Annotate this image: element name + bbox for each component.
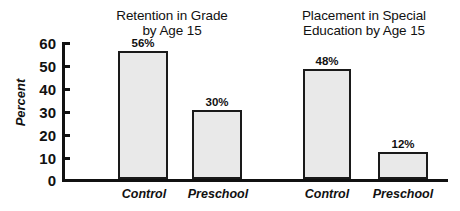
y-tick-label-50: 50: [16, 59, 56, 74]
x-label-retention-preschool: Preschool: [178, 188, 258, 201]
y-tick-label-60: 60: [16, 36, 56, 51]
x-label-placement-preschool: Preschool: [363, 188, 443, 201]
y-tick-10: [62, 157, 70, 160]
x-label-placement-control: Control: [291, 188, 363, 201]
bar-value-retention-preschool: 30%: [187, 96, 247, 108]
panel-title-placement: Placement in Special Education by Age 15: [276, 8, 452, 38]
y-tick-label-40: 40: [16, 82, 56, 97]
y-tick-40: [62, 88, 70, 91]
bar-placement-control: [303, 69, 351, 179]
x-label-retention-control: Control: [108, 188, 180, 201]
bar-chart-figure: Retention in Grade by Age 15 Placement i…: [0, 0, 460, 211]
bar-value-placement-control: 48%: [297, 55, 357, 67]
y-axis-title: Percent: [13, 68, 28, 138]
y-tick-label-20: 20: [16, 128, 56, 143]
bar-value-placement-preschool: 12%: [373, 138, 433, 150]
x-axis-line: [62, 179, 448, 182]
panel-title-retention: Retention in Grade by Age 15: [92, 8, 252, 38]
y-tick-60: [62, 42, 70, 45]
y-tick-30: [62, 111, 70, 114]
y-tick-label-30: 30: [16, 105, 56, 120]
bar-retention-preschool: [192, 110, 242, 179]
y-tick-label-10: 10: [16, 151, 56, 166]
bar-retention-control: [118, 51, 168, 179]
bar-placement-preschool: [378, 152, 428, 179]
y-tick-label-0: 0: [16, 173, 56, 188]
y-tick-20: [62, 134, 70, 137]
y-tick-50: [62, 65, 70, 68]
bar-value-retention-control: 56%: [113, 37, 173, 49]
